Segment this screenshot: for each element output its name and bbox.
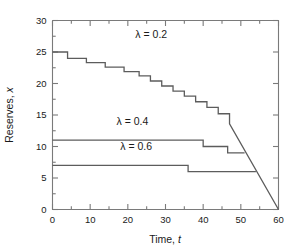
x-tick-label: 30 [160, 214, 171, 225]
x-tick-label: 50 [236, 214, 247, 225]
y-tick-label: 30 [36, 15, 47, 26]
x-tick-label: 20 [123, 214, 134, 225]
y-tick-label: 15 [36, 109, 47, 120]
figure-container: 0102030405060051015202530 λ = 0.2λ = 0.4… [0, 0, 304, 250]
y-tick-label: 0 [41, 204, 46, 215]
x-tick-label: 0 [50, 214, 55, 225]
x-axis-title: Time, t [149, 233, 182, 245]
x-tick-label: 40 [198, 214, 209, 225]
reserves-vs-time-chart: 0102030405060051015202530 λ = 0.2λ = 0.4… [0, 0, 304, 250]
y-tick-label: 5 [41, 172, 46, 183]
x-tick-label: 60 [273, 214, 284, 225]
y-tick-label: 20 [36, 78, 47, 89]
y-tick-label: 10 [36, 141, 47, 152]
y-tick-label: 25 [36, 46, 47, 57]
series-label: λ = 0.4 [117, 115, 149, 127]
series-label: λ = 0.6 [120, 140, 152, 152]
x-tick-label: 10 [85, 214, 96, 225]
series-label: λ = 0.2 [135, 28, 167, 40]
y-axis-title: Reserves, x [3, 87, 15, 143]
